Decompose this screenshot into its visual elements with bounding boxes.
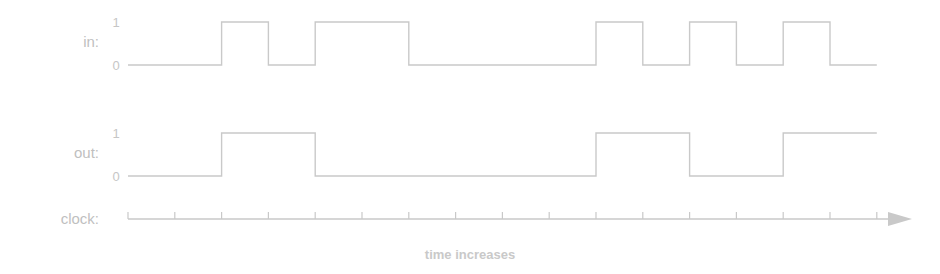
time-axis-caption: time increases: [425, 247, 515, 262]
clock-tick-group: [128, 212, 877, 219]
waveform-out: [128, 133, 877, 176]
waveform-in: [128, 22, 877, 65]
row-label-clock: clock:: [61, 210, 99, 227]
timing-diagram: in: 1 0 out: 1 0 clock: time increases: [0, 0, 940, 274]
in-high-level-label: 1: [112, 15, 119, 30]
out-high-level-label: 1: [112, 126, 119, 141]
time-arrow-icon: [888, 212, 912, 226]
row-label-out: out:: [74, 144, 99, 161]
in-low-level-label: 0: [112, 58, 119, 73]
out-low-level-label: 0: [112, 169, 119, 184]
row-label-in: in:: [83, 33, 99, 50]
